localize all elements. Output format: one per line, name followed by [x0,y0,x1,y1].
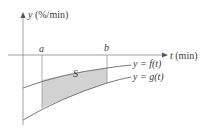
region-s-label: S [73,68,78,79]
svg-text:t (min): t (min) [170,50,198,62]
curve-g-label: y = g(t) [132,71,164,83]
t-axis-arrow-icon [162,53,168,58]
area-between-curves-diagram: y (%/min) t (min) a b S y = f(t) y = g(t… [0,0,205,130]
y-axis-var: y [27,9,33,20]
t-axis-var: t [170,50,173,61]
curve-f-label: y = f(t) [132,58,162,70]
svg-text:y (%/min): y (%/min) [27,9,68,21]
t-axis-unit: (min) [175,50,197,62]
y-axis-unit: (%/min) [35,9,68,21]
y-axis-arrow-icon [21,12,26,18]
bound-a-label: a [39,43,44,54]
bound-b-label: b [104,42,109,53]
